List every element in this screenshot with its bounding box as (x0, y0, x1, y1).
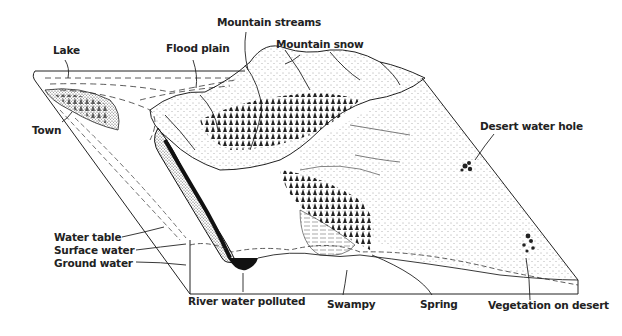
label-water-table: Water table (54, 231, 121, 243)
label-ground-water: Ground water (54, 257, 133, 269)
label-spring: Spring (420, 298, 458, 310)
label-river-water-polluted: River water polluted (188, 295, 305, 307)
label-swampy: Swampy (327, 298, 375, 310)
label-town: Town (32, 124, 61, 136)
label-flood-plain: Flood plain (166, 42, 229, 54)
polluted-river-section (228, 258, 258, 270)
label-mountain-streams: Mountain streams (217, 16, 321, 28)
label-mountain-snow: Mountain snow (276, 38, 364, 50)
label-vegetation-on-desert: Vegetation on desert (488, 299, 609, 311)
landscape-water-diagram: Mountain streams Mountain snow Lake Floo… (0, 0, 622, 336)
label-lake: Lake (53, 44, 80, 56)
label-desert-water-hole: Desert water hole (480, 120, 583, 132)
label-surface-water: Surface water (54, 244, 134, 256)
terrain-block-illustration (0, 0, 622, 336)
